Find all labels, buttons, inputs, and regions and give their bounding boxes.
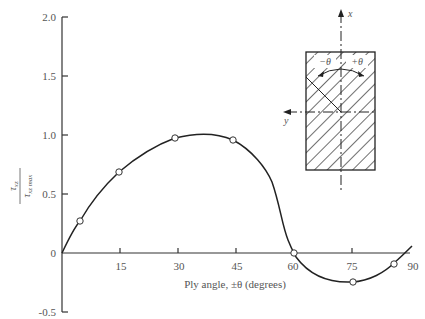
x-tick-label: 45 [232, 260, 244, 272]
x-tick-label: 90 [408, 260, 420, 272]
chart-figure: 2.0 1.5 1.0 0.5 0 -0.5 τxz τxz max 15 30… [0, 0, 425, 319]
inset-specimen-diagram: x y −θ +θ [283, 8, 375, 190]
y-tick-label: 1.0 [42, 129, 56, 141]
svg-text:τxz: τxz [7, 181, 20, 191]
data-point [391, 261, 397, 267]
y-axis: 2.0 1.5 1.0 0.5 0 -0.5 [39, 11, 68, 318]
data-point [116, 169, 122, 175]
y-label-denominator-sub: xz max [26, 174, 34, 195]
y-tick-label: 0.5 [42, 188, 56, 200]
x-axis: 15 30 45 60 75 90 Ply angle, ±θ (degrees… [62, 248, 419, 291]
data-point [172, 135, 178, 141]
data-point [230, 137, 236, 143]
x-axis-arrow-icon [338, 9, 344, 17]
minus-theta-label: −θ [319, 56, 331, 67]
x-tick-label: 15 [116, 260, 128, 272]
y-tick-label: 2.0 [42, 11, 56, 23]
y-axis-label: τxz τxz max [7, 168, 34, 204]
inset-x-label: x [347, 8, 353, 19]
y-label-numerator-sub: xz [12, 181, 20, 188]
inset-y-label: y [283, 115, 289, 126]
y-tick-label: -0.5 [39, 306, 57, 318]
x-axis-label: Ply angle, ±θ (degrees) [184, 278, 286, 291]
y-tick-label: 1.5 [42, 70, 56, 82]
data-point [350, 279, 356, 285]
plus-theta-label: +θ [351, 56, 363, 67]
data-point [77, 218, 83, 224]
x-tick-label: 30 [174, 260, 186, 272]
x-tick-label: 75 [347, 260, 359, 272]
y-tick-label: 0 [51, 247, 57, 259]
x-tick-label: 60 [288, 260, 300, 272]
svg-text:τxz max: τxz max [21, 174, 34, 198]
data-point [291, 250, 297, 256]
